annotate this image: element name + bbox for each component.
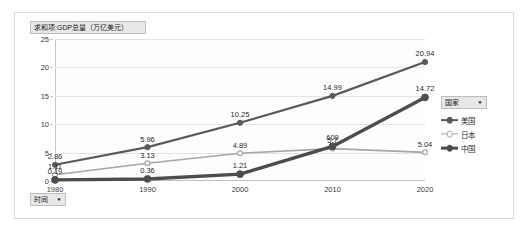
data-point [145, 145, 150, 150]
data-point [422, 59, 427, 64]
y-axis-tickmark [50, 39, 53, 40]
x-axis-tick-label: 2020 [417, 185, 434, 194]
x-axis-tick-label: 1990 [139, 185, 156, 194]
pivot-chart-object: 求和项:GDP总量（万亿美元） 时间 ▼ 国家 ▼ 0510152025 2.8… [14, 12, 514, 219]
y-axis-tickmark [50, 124, 53, 125]
data-point [144, 176, 151, 183]
y-axis-tick-label: 25 [41, 35, 49, 44]
legend-label: 日本 [461, 129, 475, 140]
y-axis-tickmark [50, 153, 53, 154]
value-field-button[interactable]: 求和项:GDP总量（万亿美元） [30, 21, 146, 34]
data-point [423, 150, 428, 155]
axis-field-label: 时间 [34, 194, 48, 205]
data-point [52, 162, 57, 167]
x-axis-tick-label: 1980 [47, 185, 64, 194]
data-point [237, 120, 242, 125]
legend-field-label: 国家 [445, 97, 459, 108]
y-axis-tick-label: 20 [41, 63, 49, 72]
y-axis-tick-label: 15 [41, 91, 49, 100]
x-axis: 19801990200020102020 [55, 183, 425, 197]
y-axis: 0510152025 [15, 39, 53, 181]
x-axis-tick-label: 2010 [324, 185, 341, 194]
legend-label: 美国 [461, 115, 475, 126]
data-point [330, 93, 335, 98]
y-axis-tick-label: 5 [45, 148, 49, 157]
legend-marker-icon [441, 144, 458, 152]
legend-marker-icon [441, 130, 458, 138]
data-point [238, 151, 243, 156]
legend-field-button[interactable]: 国家 ▼ [441, 96, 487, 109]
chart-legend: 美国日本中国 [441, 113, 501, 155]
data-point [237, 171, 244, 178]
y-axis-tick-label: 10 [41, 120, 49, 129]
y-axis-tickmark [50, 67, 53, 68]
value-field-label: 求和项:GDP总量（万亿美元） [34, 22, 128, 33]
legend-item-中国[interactable]: 中国 [441, 141, 501, 155]
legend-label: 中国 [461, 143, 475, 154]
data-point [145, 161, 150, 166]
x-axis-tick-label: 2000 [232, 185, 249, 194]
y-axis-tickmark [50, 96, 53, 97]
filter-icon: ▼ [473, 98, 483, 106]
series-lines [55, 39, 425, 181]
legend-item-日本[interactable]: 日本 [441, 127, 501, 141]
legend-item-美国[interactable]: 美国 [441, 113, 501, 127]
data-point [329, 143, 336, 150]
data-point [422, 94, 429, 101]
legend-marker-icon [441, 116, 458, 124]
plot-area: 2.865.9610.2514.9920.941.113.134.895.75.… [55, 39, 425, 181]
